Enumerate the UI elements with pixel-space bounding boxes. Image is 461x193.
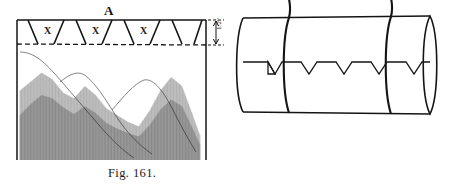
band-mark-3: X — [140, 26, 147, 36]
figure-162: Fig. 162. — [225, 0, 461, 193]
engraving-plate: A — [0, 0, 461, 193]
figure-162-drawing — [225, 0, 461, 165]
lacing-seam — [243, 62, 430, 74]
band-mark-2: X — [92, 26, 99, 36]
figure-161-drawing — [0, 0, 240, 165]
figure-161: A — [0, 0, 240, 193]
figure-161-caption: Fig. 161. — [108, 166, 156, 181]
cylinder-body — [237, 16, 437, 114]
hatched-profile-field — [20, 73, 200, 160]
dimension-label: 1/2" — [215, 18, 223, 30]
dovetail-band — [28, 20, 202, 44]
dashed-boundary — [17, 44, 206, 45]
band-mark-1: X — [44, 26, 51, 36]
